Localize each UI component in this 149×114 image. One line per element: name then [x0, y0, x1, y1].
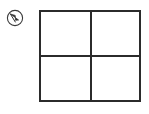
grid-cell-top-left[interactable] [41, 12, 90, 56]
grid-cell-top-right[interactable] [92, 12, 141, 56]
two-by-two-grid [39, 10, 141, 102]
bird-figure [138, 101, 149, 114]
screenshot-canvas [0, 0, 149, 114]
circled-arrow-icon [6, 9, 24, 27]
grid-cell-bottom-left[interactable] [41, 57, 90, 101]
grid-cell-bottom-right[interactable] [92, 57, 141, 101]
